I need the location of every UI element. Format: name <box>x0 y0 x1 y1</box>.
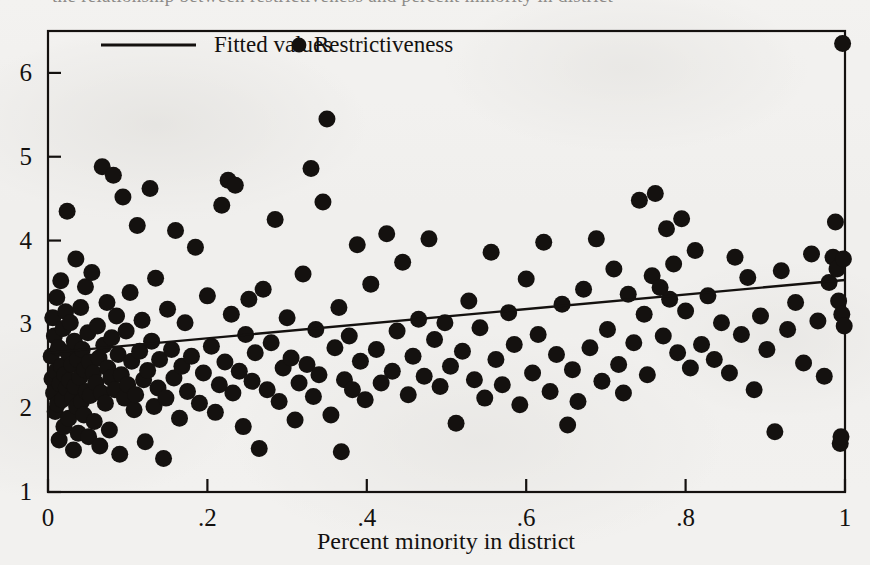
legend-label-restrictiveness: Restrictiveness <box>314 32 453 58</box>
x-axis-tick-label: .8 <box>676 504 695 532</box>
figure-page: the relationship between restrictiveness… <box>0 0 870 565</box>
axes-frame <box>48 31 845 492</box>
x-axis-tick-label: .2 <box>198 504 217 532</box>
x-axis-title: Percent minority in district <box>317 528 575 555</box>
x-axis-tick-label: 1 <box>839 504 852 532</box>
y-axis-tick-label: 6 <box>0 59 32 87</box>
y-axis-tick-label: 5 <box>0 143 32 171</box>
scatter-chart: 123456 0.2.4.6.81 Percent minority in di… <box>0 0 870 565</box>
y-axis-tick-label: 3 <box>0 310 32 338</box>
y-axis-tick-label: 2 <box>0 394 32 422</box>
y-axis-tick-label: 4 <box>0 227 32 255</box>
tick-marks <box>48 73 845 492</box>
scatter-points <box>43 35 853 467</box>
chart-canvas <box>0 0 870 565</box>
y-axis-tick-label: 1 <box>0 478 32 506</box>
x-axis-tick-label: 0 <box>42 504 55 532</box>
